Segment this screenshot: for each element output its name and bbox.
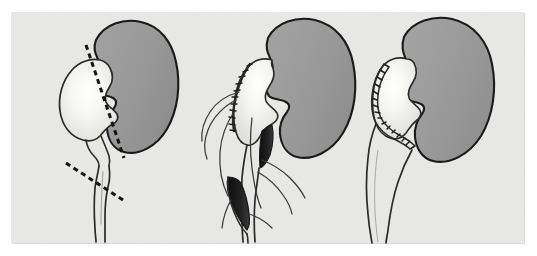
illustration-canvas	[0, 0, 537, 256]
figure-root: Dismembered pyeloplasty of the ureterope…	[0, 0, 537, 256]
